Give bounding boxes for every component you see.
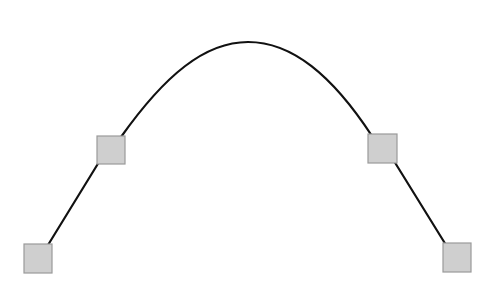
curve-segment-s2 xyxy=(394,161,446,245)
control-point-p4[interactable] xyxy=(443,243,471,272)
control-point-p2[interactable] xyxy=(97,136,125,164)
curve-diagram xyxy=(0,0,490,289)
curve-segment-s1 xyxy=(48,162,99,245)
curve-segment-arc xyxy=(121,42,372,137)
control-point-p1[interactable] xyxy=(24,244,52,273)
control-point-p3[interactable] xyxy=(368,134,397,163)
